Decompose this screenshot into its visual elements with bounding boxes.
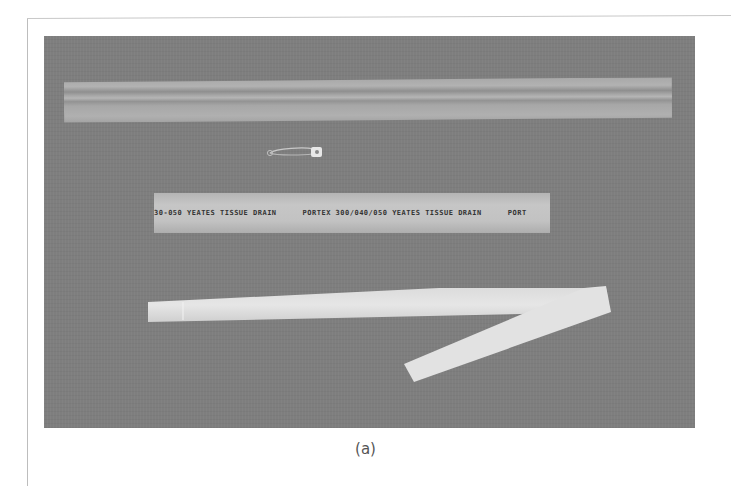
- frame-top-border: [27, 15, 731, 19]
- frame-left-border: [27, 19, 28, 486]
- tube-drain: [44, 36, 695, 428]
- figure-photo: 30-050 YEATES TISSUE DRAIN PORTEX 300/04…: [44, 36, 695, 428]
- figure-caption: (a): [0, 440, 731, 458]
